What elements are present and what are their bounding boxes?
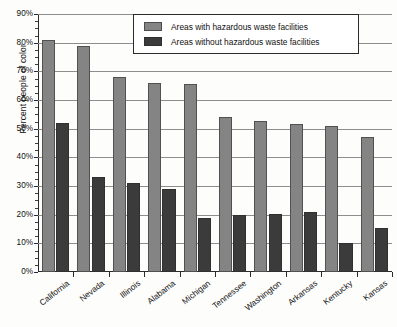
bar — [198, 218, 211, 272]
y-tick-minor — [35, 122, 38, 123]
x-axis-label: California — [37, 278, 71, 307]
y-tick-minor — [35, 150, 38, 151]
y-tick-minor — [35, 265, 38, 266]
x-axis-label: Tennessee — [210, 278, 248, 311]
y-tick-label: 10% — [17, 239, 33, 247]
x-tick — [73, 272, 74, 277]
bar — [219, 117, 232, 272]
bar — [339, 243, 352, 272]
y-tick-minor — [35, 79, 38, 80]
y-tick-label: 70% — [17, 67, 33, 75]
x-tick — [180, 272, 181, 277]
y-tick-minor — [35, 165, 38, 166]
bar — [56, 123, 69, 272]
y-tick-minor — [35, 50, 38, 51]
bar — [148, 83, 161, 272]
bar-group — [42, 14, 70, 272]
bar — [254, 121, 267, 272]
bar — [113, 77, 126, 272]
y-tick-minor — [35, 236, 38, 237]
x-axis-label: Illinois — [117, 278, 141, 300]
y-tick-minor — [35, 222, 38, 223]
y-tick-minor — [35, 193, 38, 194]
bar-group — [77, 14, 105, 272]
y-tick-major — [34, 14, 39, 15]
y-tick-minor — [35, 57, 38, 58]
bar — [162, 189, 175, 272]
y-tick-minor — [35, 179, 38, 180]
y-tick-minor — [35, 251, 38, 252]
y-tick-major — [34, 100, 39, 101]
dark-swatch-icon — [144, 37, 162, 46]
y-tick-label: 20% — [17, 211, 33, 219]
y-tick-label: 40% — [17, 153, 33, 161]
y-tick-minor — [35, 64, 38, 65]
gray-swatch-icon — [144, 22, 162, 31]
bar — [304, 212, 317, 272]
y-tick-major — [34, 43, 39, 44]
y-tick-minor — [35, 21, 38, 22]
bar — [42, 40, 55, 272]
bar — [290, 124, 303, 272]
bar — [375, 228, 388, 272]
y-tick-minor — [35, 229, 38, 230]
y-tick-minor — [35, 93, 38, 94]
y-tick-major — [34, 243, 39, 244]
bar-chart: Percent people of color 0%10%20%30%40%50… — [0, 0, 397, 327]
x-axis-label: Kansas — [361, 278, 389, 303]
y-tick-label: 30% — [17, 182, 33, 190]
y-axis-title: Percent people of color — [18, 14, 28, 164]
y-tick-label: 0% — [21, 268, 33, 276]
x-tick — [215, 272, 216, 277]
x-tick — [144, 272, 145, 277]
y-tick-minor — [35, 107, 38, 108]
x-axis-label: Alabama — [145, 278, 177, 306]
y-tick-label: 80% — [17, 39, 33, 47]
x-tick — [286, 272, 287, 277]
y-tick-label: 90% — [17, 10, 33, 18]
y-tick-major — [34, 129, 39, 130]
y-tick-minor — [35, 86, 38, 87]
y-tick-minor — [35, 208, 38, 209]
bar-group — [361, 14, 389, 272]
y-tick-major — [34, 186, 39, 187]
y-tick-minor — [35, 143, 38, 144]
legend-item-label: Areas with hazardous waste facilities — [171, 22, 308, 32]
bar — [184, 84, 197, 272]
y-tick-label: 60% — [17, 96, 33, 104]
y-tick-minor — [35, 114, 38, 115]
y-tick-minor — [35, 36, 38, 37]
legend-item-label: Areas without hazardous waste facilities — [171, 37, 320, 47]
y-tick-major — [34, 272, 39, 273]
x-tick — [357, 272, 358, 277]
y-tick-minor — [35, 136, 38, 137]
y-tick-minor — [35, 28, 38, 29]
y-tick-minor — [35, 172, 38, 173]
x-axis-label: Arkansas — [285, 278, 318, 307]
y-tick-major — [34, 157, 39, 158]
bar — [127, 183, 140, 272]
y-tick-major — [34, 71, 39, 72]
chart-legend: Areas with hazardous waste facilities Ar… — [133, 14, 359, 54]
legend-item: Areas without hazardous waste facilities — [134, 34, 358, 49]
bar — [233, 215, 246, 272]
y-tick-minor — [35, 200, 38, 201]
legend-item: Areas with hazardous waste facilities — [134, 19, 358, 34]
x-axis-label: Michigan — [180, 278, 212, 306]
bar — [361, 137, 374, 272]
bar — [269, 214, 282, 272]
bar — [92, 177, 105, 272]
bar — [77, 46, 90, 272]
y-tick-major — [34, 215, 39, 216]
x-tick — [321, 272, 322, 277]
x-tick — [250, 272, 251, 277]
bar — [325, 126, 338, 272]
x-axis-label: Washington — [243, 278, 283, 313]
y-tick-label: 50% — [17, 125, 33, 133]
x-axis-label: Nevada — [78, 278, 107, 303]
x-axis-label: Kentucky — [321, 278, 354, 307]
y-tick-minor — [35, 258, 38, 259]
x-tick — [109, 272, 110, 277]
x-tick — [392, 272, 393, 277]
